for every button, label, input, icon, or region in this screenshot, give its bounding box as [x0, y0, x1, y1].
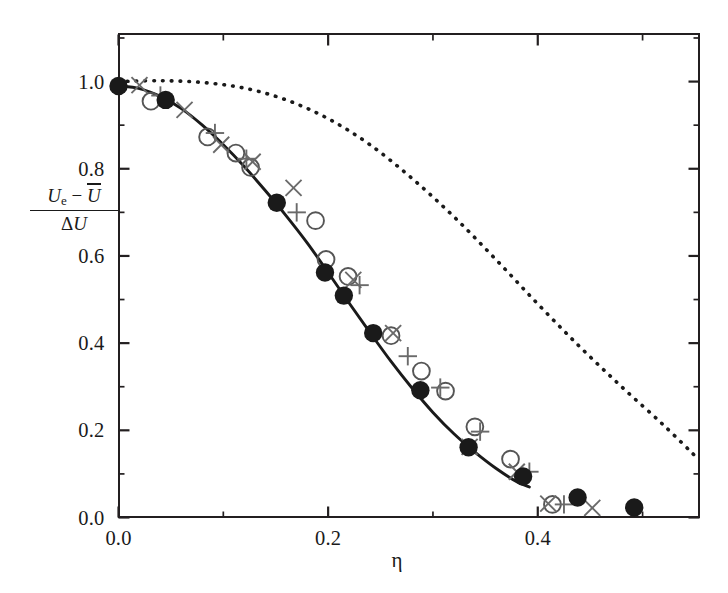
- y-tick-label: 0.6: [78, 244, 104, 267]
- data-point-filled-circle: [459, 438, 477, 456]
- y-tick-label: 1.0: [78, 70, 104, 93]
- y-tick-label: 0.0: [78, 506, 104, 529]
- symbol-Ue: U: [47, 185, 61, 206]
- axis-ticks-group: [119, 35, 700, 518]
- plot-canvas: [0, 0, 728, 593]
- data-point-plus: [206, 124, 224, 142]
- data-point-plus: [471, 422, 489, 440]
- solid-fit-curve: [119, 86, 530, 487]
- data-point-filled-circle: [335, 286, 353, 304]
- data-point-x: [286, 180, 302, 196]
- data-point-plus: [431, 378, 449, 396]
- subscript-e: e: [61, 193, 67, 208]
- y-tick-label: 0.2: [78, 419, 104, 442]
- fraction-bar: [30, 210, 118, 212]
- y-axis-title-denominator: ΔU: [30, 213, 118, 234]
- data-point-filled-circle: [316, 263, 334, 281]
- data-point-plus: [399, 347, 417, 365]
- data-point-filled-circle: [364, 324, 382, 342]
- data-point-filled-circle: [156, 91, 174, 109]
- data-point-open-circle: [307, 212, 324, 229]
- markers-group: [109, 77, 643, 517]
- data-point-open-circle: [340, 268, 357, 285]
- x-tick-label: 0.2: [315, 527, 341, 550]
- data-point-filled-circle: [411, 381, 429, 399]
- data-point-x: [177, 102, 193, 118]
- symbol-eta: η: [392, 548, 403, 573]
- dotted-model-curve: [119, 81, 700, 460]
- y-tick-label: 0.8: [78, 157, 104, 180]
- x-axis-title: η: [0, 548, 728, 573]
- data-point-x: [131, 77, 147, 93]
- data-point-filled-circle: [514, 467, 532, 485]
- data-point-filled-circle: [625, 498, 643, 516]
- symbol-U: U: [73, 213, 87, 234]
- data-point-x: [584, 500, 600, 516]
- y-axis-title-numerator: Ue − U: [30, 186, 118, 209]
- data-point-filled-circle: [568, 488, 586, 506]
- y-tick-label: 0.4: [78, 332, 104, 355]
- symbol-U-mean: U: [87, 186, 101, 206]
- data-point-open-circle: [413, 363, 430, 380]
- curves-group: [119, 81, 700, 487]
- minus-sign: −: [72, 185, 83, 206]
- symbol-delta: Δ: [61, 213, 73, 234]
- data-point-filled-circle: [109, 77, 127, 95]
- data-point-filled-circle: [268, 194, 286, 212]
- x-tick-label: 0.4: [525, 527, 551, 550]
- y-axis-title: Ue − U ΔU: [30, 186, 118, 234]
- chart-figure: 0.00.20.40.60.81.0 0.00.20.4 Ue − U ΔU η: [0, 0, 728, 593]
- data-point-plus: [237, 150, 255, 168]
- x-tick-label: 0.0: [105, 527, 131, 550]
